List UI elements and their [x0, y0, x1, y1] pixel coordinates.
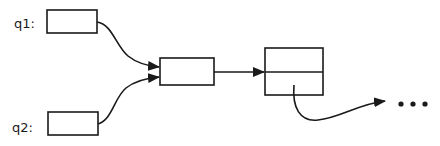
q1-label: q1: [14, 17, 35, 30]
q2-box [48, 112, 98, 135]
diagram-svg [0, 0, 440, 146]
arrow-q1-to-middle [97, 22, 159, 67]
arrow-node-next [294, 85, 385, 120]
diagram-canvas: q1: q2: [0, 0, 440, 146]
q1-box [47, 10, 97, 33]
q2-label: q2: [12, 121, 33, 134]
ellipsis-icon [398, 101, 427, 106]
middle-box [160, 58, 214, 85]
arrow-q2-to-middle [98, 77, 159, 124]
